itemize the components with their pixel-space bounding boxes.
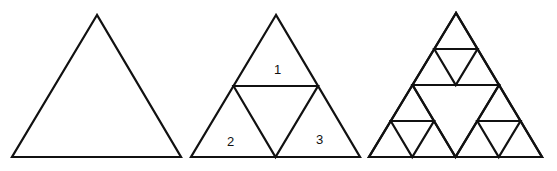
sierpinski-diagram: 1 2 3 bbox=[0, 0, 557, 171]
triangle-outline bbox=[234, 86, 319, 157]
triangle-outline bbox=[434, 49, 477, 85]
stage-2-subdivided-triangle bbox=[369, 13, 542, 157]
stage-1-subdivided-triangle bbox=[191, 15, 360, 157]
region-label-3: 3 bbox=[316, 132, 323, 147]
stage-0-triangle bbox=[12, 15, 181, 157]
region-label-2: 2 bbox=[227, 134, 234, 149]
triangle-outline bbox=[477, 121, 520, 157]
region-label-1: 1 bbox=[274, 62, 281, 77]
triangle-outline bbox=[391, 121, 434, 157]
triangle-outline bbox=[12, 15, 181, 157]
